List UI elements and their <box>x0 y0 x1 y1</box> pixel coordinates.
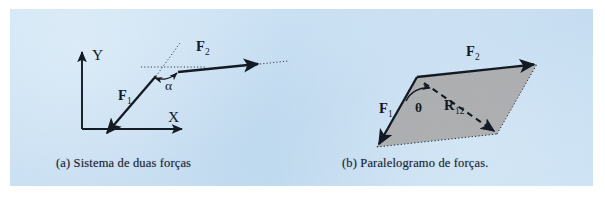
panel-a-diagram: Y X F 1 F 2 α <box>82 38 288 133</box>
figure-panel-background: Y X F 1 F 2 α <box>10 9 593 186</box>
angle-alpha-label: α <box>165 78 172 93</box>
caption-panel-b: (b) Paralelogramo de forças. <box>342 156 489 171</box>
vector-f2-label-parallelogram: F 2 <box>466 43 480 62</box>
svg-text:2: 2 <box>475 52 480 62</box>
svg-text:1: 1 <box>127 96 132 106</box>
vector-f2-label: F 2 <box>196 38 210 57</box>
vector-f1-label: F 1 <box>118 87 132 106</box>
panel-b-diagram: F 2 F 1 R 12 θ <box>377 43 537 147</box>
y-axis-label: Y <box>92 46 103 63</box>
figure-root: Y X F 1 F 2 α <box>0 0 605 199</box>
svg-text:12: 12 <box>455 106 465 116</box>
x-axis-label: X <box>168 108 179 125</box>
f2-line-of-action-dotted <box>260 61 288 64</box>
angle-theta-label: θ <box>415 100 422 115</box>
svg-text:F: F <box>118 87 127 103</box>
svg-text:F: F <box>196 38 205 54</box>
svg-text:1: 1 <box>388 109 393 119</box>
vector-f2 <box>178 64 258 72</box>
caption-panel-a: (a) Sistema de duas forças <box>56 156 191 171</box>
svg-text:F: F <box>379 100 388 116</box>
svg-text:R: R <box>444 97 455 113</box>
svg-text:2: 2 <box>205 47 210 57</box>
svg-text:F: F <box>466 43 475 59</box>
vector-f1-label-parallelogram: F 1 <box>379 100 393 119</box>
